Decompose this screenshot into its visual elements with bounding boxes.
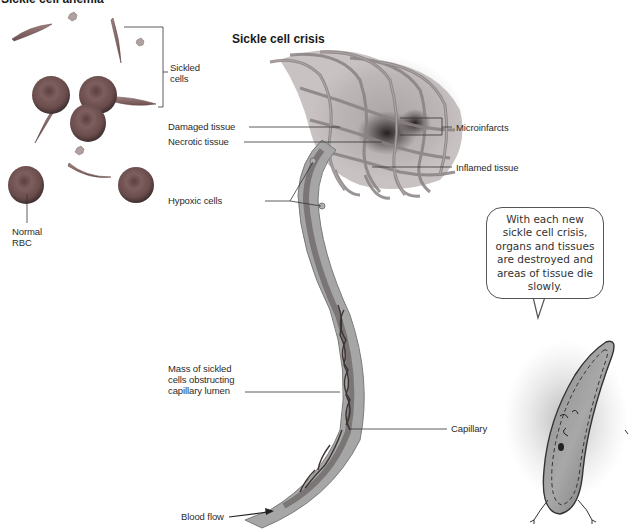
- label-sickled-cells: Sickled cells: [170, 62, 200, 84]
- label-line: Mass of sickled: [168, 363, 234, 374]
- label-inflamed-tissue: Inflamed tissue: [456, 162, 518, 173]
- normal-rbc-group: [8, 76, 154, 204]
- label-line: capillary lumen: [168, 385, 234, 396]
- tissue-mass: [270, 50, 466, 198]
- label-microinfarcts: Microinfarcts: [456, 122, 509, 133]
- label-line: Normal: [12, 226, 42, 237]
- section-title: Sickle cell crisis: [232, 32, 325, 46]
- label-hypoxic-cells: Hypoxic cells: [168, 195, 222, 206]
- label-line: cells: [170, 73, 200, 84]
- label-damaged-tissue: Damaged tissue: [168, 121, 235, 132]
- label-mass-sickled-cells: Mass of sickled cells obstructing capill…: [168, 363, 234, 396]
- speech-bubble: With each new sickle cell crisis, organs…: [486, 207, 604, 299]
- speech-bubble-text: With each new sickle cell crisis, organs…: [491, 213, 599, 294]
- label-necrotic-tissue: Necrotic tissue: [168, 136, 229, 147]
- capillary-vessel: [245, 140, 364, 528]
- label-line: RBC: [12, 237, 42, 248]
- label-line: cells obstructing: [168, 374, 234, 385]
- label-blood-flow: Blood flow: [181, 511, 224, 522]
- label-capillary: Capillary: [451, 423, 487, 434]
- label-line: Sickled: [170, 62, 200, 73]
- main-title: Sickle cell anemia: [1, 0, 104, 6]
- label-normal-rbc: Normal RBC: [12, 226, 42, 248]
- sickle-cell-character: [504, 340, 628, 524]
